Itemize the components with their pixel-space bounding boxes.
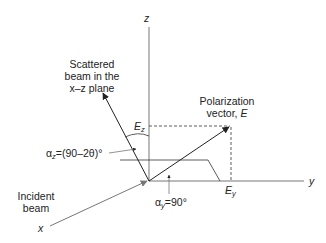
ey-main: E <box>225 184 232 196</box>
polarization-symbol: E <box>240 107 247 119</box>
scattered-beam-arrow <box>103 93 149 181</box>
scattered-beam-line-1: Scattered <box>60 58 124 70</box>
y-axis-label: y <box>309 175 314 187</box>
polarization-vector-arrow <box>149 127 229 181</box>
ey-label: Ey <box>225 184 236 200</box>
polarization-line-2: vector, <box>207 107 241 119</box>
alpha-z-value: =(90–2θ)° <box>56 147 103 159</box>
z-axis-label: z <box>144 12 149 24</box>
alpha-y-value: =90° <box>165 196 187 208</box>
polarization-vector-label: Polarization vector, E <box>195 95 259 119</box>
scattered-beam-label: Scattered beam in the x–z plane <box>60 58 124 94</box>
alpha-z-label: αz=(90–2θ)° <box>46 147 102 163</box>
incident-beam-line-2: beam <box>14 202 58 214</box>
incident-beam-line-1: Incident <box>14 190 58 202</box>
incident-beam-arrow <box>50 181 147 226</box>
scattered-beam-line-3: x–z plane <box>60 82 124 94</box>
ez-label: Ez <box>134 120 145 136</box>
x-axis-label: x <box>38 222 43 234</box>
ez-sub: z <box>141 125 145 134</box>
alpha-z-pointer <box>109 149 136 153</box>
scattered-beam-line-2: beam in the <box>60 70 124 82</box>
alpha-y-label: αy=90° <box>155 196 187 212</box>
incident-beam-label: Incident beam <box>14 190 58 214</box>
polarization-line-1: Polarization <box>195 95 259 107</box>
plane-outline <box>120 160 220 181</box>
ez-main: E <box>134 120 141 132</box>
ey-sub: y <box>232 189 236 198</box>
